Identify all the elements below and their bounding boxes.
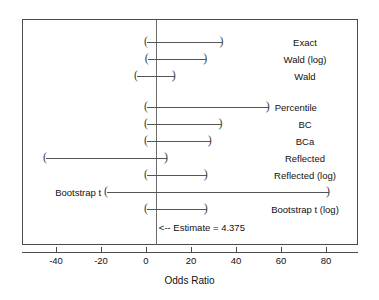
interval-upper-cap: ) [218, 116, 222, 130]
interval-upper-cap: ) [172, 68, 176, 82]
x-axis-tick-label: 80 [321, 255, 332, 267]
row-label: Wald [294, 71, 315, 83]
interval-lower-cap: ( [144, 201, 148, 215]
interval-upper-cap: ) [208, 133, 212, 147]
interval-lower-cap: ( [134, 68, 138, 82]
row-label: Bootstrap t (log) [271, 204, 339, 216]
interval-lower-cap: ( [104, 184, 108, 198]
interval-bar [137, 76, 175, 77]
interval-upper-cap: ) [220, 34, 224, 48]
x-axis-tick-label: -40 [49, 255, 63, 267]
row-label: Reflected (log) [274, 170, 336, 182]
interval-upper-cap: ) [164, 150, 168, 164]
interval-bar [46, 158, 167, 159]
x-axis-tick-label: 40 [231, 255, 242, 267]
interval-lower-cap: ( [144, 34, 148, 48]
interval-lower-cap: ( [144, 116, 148, 130]
interval-lower-cap: ( [144, 99, 148, 113]
interval-lower-cap: ( [144, 167, 148, 181]
row-label: BC [298, 119, 311, 131]
row-label: Percentile [275, 102, 317, 114]
x-axis-tick-label: 20 [186, 255, 197, 267]
interval-upper-cap: ) [204, 167, 208, 181]
interval-lower-cap: ( [145, 51, 149, 65]
interval-bar [147, 124, 221, 125]
forest-plot: ()Exact()Wald (log)()Wald()Percentile()B… [0, 0, 379, 300]
x-axis-tick [101, 247, 102, 252]
confidence-interval-row: () [0, 118, 379, 132]
x-axis-tick-label: 60 [276, 255, 287, 267]
x-axis-title: Odds Ratio [0, 275, 379, 287]
x-axis-tick [146, 247, 147, 252]
row-label: Bootstrap t [55, 187, 101, 199]
confidence-interval-row: () [0, 101, 379, 115]
interval-upper-cap: ) [203, 51, 207, 65]
row-label: Exact [293, 37, 317, 49]
estimate-annotation: <-- Estimate = 4.375 [159, 222, 245, 234]
interval-upper-cap: ) [326, 184, 330, 198]
row-label: BCa [296, 136, 314, 148]
confidence-interval-row: () [0, 70, 379, 84]
interval-bar [148, 59, 207, 60]
interval-bar [147, 175, 207, 176]
interval-lower-cap: ( [144, 133, 148, 147]
row-label: Reflected [285, 153, 325, 165]
x-axis-tick-label: 0 [143, 255, 148, 267]
interval-bar [107, 192, 329, 193]
confidence-interval-row: () [0, 135, 379, 149]
x-axis-tick [56, 247, 57, 252]
x-axis-tick [236, 247, 237, 252]
interval-upper-cap: ) [204, 201, 208, 215]
interval-upper-cap: ) [266, 99, 270, 113]
interval-bar [147, 209, 207, 210]
x-axis-tick-label: -20 [94, 255, 108, 267]
row-label: Wald (log) [284, 54, 327, 66]
confidence-interval-row: () [0, 36, 379, 50]
x-axis-line [22, 252, 358, 253]
interval-bar [147, 141, 211, 142]
interval-lower-cap: ( [43, 150, 47, 164]
interval-bar [147, 42, 223, 43]
x-axis-tick [281, 247, 282, 252]
x-axis-tick [191, 247, 192, 252]
x-axis-tick [326, 247, 327, 252]
interval-bar [147, 107, 269, 108]
